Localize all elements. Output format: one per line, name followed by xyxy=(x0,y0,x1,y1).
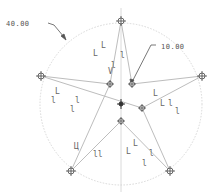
dimension-leader-40[interactable] xyxy=(48,23,66,40)
constraint-glyph[interactable]: l xyxy=(149,150,154,158)
inner-right-point-icon xyxy=(138,104,146,112)
dimension-10[interactable]: 10.00 xyxy=(161,43,185,51)
sketch-canvas[interactable] xyxy=(0,0,219,195)
constraint-glyph[interactable]: L xyxy=(126,148,131,156)
constraint-glyph[interactable]: Ц xyxy=(74,143,79,151)
dimension-40[interactable]: 40.00 xyxy=(6,20,30,28)
constraint-glyph[interactable]: l xyxy=(175,108,180,116)
constraint-glyph[interactable]: l xyxy=(51,97,56,105)
vertex-markers[interactable] xyxy=(36,16,207,176)
constraint-glyph[interactable]: L xyxy=(55,88,60,96)
constraint-glyph[interactable]: V xyxy=(108,68,113,76)
constraint-glyph[interactable]: L xyxy=(160,100,165,108)
constraint-glyph[interactable]: L xyxy=(93,50,98,58)
inner-upper-right-point-icon xyxy=(128,80,136,88)
constraint-glyph[interactable]: l xyxy=(120,52,125,60)
constraint-glyph[interactable]: l xyxy=(70,106,75,114)
constraint-glyph[interactable]: L xyxy=(153,90,158,98)
constraint-glyph[interactable]: l xyxy=(75,97,80,105)
constraint-glyph[interactable]: L xyxy=(101,42,106,50)
constraint-glyph[interactable]: l xyxy=(168,100,173,108)
vertex-left-point-icon xyxy=(36,71,46,81)
dimension-leader-10[interactable] xyxy=(130,45,156,84)
inner-upper-left-point-icon xyxy=(106,80,114,88)
constraint-glyph[interactable]: ll xyxy=(93,151,103,159)
constraint-glyph[interactable]: l xyxy=(142,160,147,168)
vertex-top-point-icon xyxy=(116,16,126,26)
constraint-glyph[interactable]: L xyxy=(133,140,138,148)
